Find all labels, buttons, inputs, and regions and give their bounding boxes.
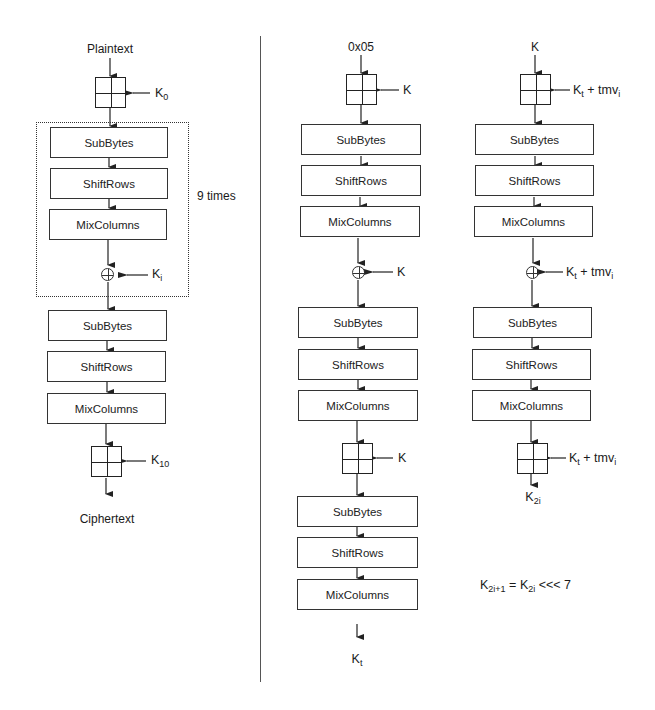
step-mixcolumns: MixColumns xyxy=(49,209,167,240)
kt-step-mixcolumns-1: MixColumns xyxy=(300,206,420,237)
kt-output-label: Kt xyxy=(352,652,363,666)
add-key-grid-icon-2 xyxy=(342,443,373,474)
input-k-label: K xyxy=(531,40,539,54)
rotation-formula: K2i+1 = K2i <<< 7 xyxy=(480,578,571,592)
key-k-label-3: K xyxy=(398,451,406,465)
k2i-step-mixcolumns-2: MixColumns xyxy=(472,390,591,421)
add-key-grid-icon-2 xyxy=(517,443,548,474)
key-kt-tmv-label-2: Kt + tmvi xyxy=(566,265,613,279)
add-key-grid-icon xyxy=(346,74,377,105)
kt-step-subbytes-3: SubBytes xyxy=(297,496,418,527)
add-key-grid-icon xyxy=(520,74,551,105)
repeat-label: 9 times xyxy=(197,189,236,203)
column-divider xyxy=(260,36,261,682)
key-kt-tmv-label-3: Kt + tmvi xyxy=(569,451,616,465)
xor-icon xyxy=(352,266,365,279)
kt-step-subbytes-2: SubBytes xyxy=(298,307,418,338)
final-step-shiftrows: ShiftRows xyxy=(47,351,166,382)
k2i-step-shiftrows-2: ShiftRows xyxy=(472,349,591,380)
k2i-step-subbytes-2: SubBytes xyxy=(473,307,592,338)
input-0x05-label: 0x05 xyxy=(348,40,374,54)
k2i-step-shiftrows-1: ShiftRows xyxy=(475,165,594,196)
kt-step-subbytes-1: SubBytes xyxy=(301,124,421,155)
xor-icon xyxy=(101,268,114,281)
key-k0-label: K0 xyxy=(155,86,168,100)
aes-diagram: Plaintext K0 SubBytes ShiftRows MixColum… xyxy=(0,0,655,710)
step-shiftrows: ShiftRows xyxy=(50,168,168,199)
key-ki-label: Ki xyxy=(152,267,162,281)
key-k10-label: K10 xyxy=(151,453,169,467)
k2i-step-mixcolumns-1: MixColumns xyxy=(474,206,593,237)
kt-step-mixcolumns-2: MixColumns xyxy=(298,390,418,421)
key-kt-tmv-label-1: Kt + tmvi xyxy=(573,83,620,97)
kt-step-shiftrows-2: ShiftRows xyxy=(298,349,418,380)
final-step-subbytes: SubBytes xyxy=(48,310,167,341)
kt-step-shiftrows-3: ShiftRows xyxy=(297,537,418,568)
final-add-round-key-grid-icon xyxy=(91,446,122,477)
key-k-label-2: K xyxy=(397,265,405,279)
final-step-mixcolumns: MixColumns xyxy=(47,393,166,424)
key-k-label-1: K xyxy=(403,83,411,97)
kt-step-mixcolumns-3: MixColumns xyxy=(297,579,418,610)
add-round-key-grid-icon xyxy=(95,77,126,108)
step-subbytes: SubBytes xyxy=(50,127,168,158)
ciphertext-label: Ciphertext xyxy=(80,512,135,526)
xor-icon xyxy=(526,266,539,279)
k2i-step-subbytes-1: SubBytes xyxy=(475,124,594,155)
kt-step-shiftrows-1: ShiftRows xyxy=(301,165,421,196)
plaintext-label: Plaintext xyxy=(87,42,133,56)
k2i-output-label: K2i xyxy=(525,490,540,504)
